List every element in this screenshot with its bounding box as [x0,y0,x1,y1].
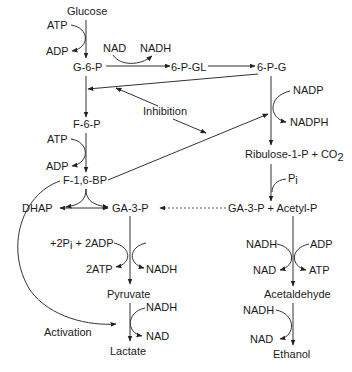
cofactor-nadp: NADP [293,84,324,96]
node-ethanol: Ethanol [273,348,310,360]
cofactor-2atp: 2ATP [86,263,113,275]
arrow-inhibition-down [173,119,206,133]
cofactor-nadh-eth: NADH [243,304,274,316]
arrow-2adp-2atp [114,243,128,267]
cofactor-adp-ace: ADP [310,238,333,250]
cofactor-nad-eth: NAD [250,333,273,345]
cofactor-nadh-lac: NADH [146,301,177,313]
arrow-inhibition-up [116,88,158,106]
arrow-adp-atp-ace [294,244,309,270]
cofactor-nad-1: NAD [103,42,126,54]
arrow-atp-adp-2 [71,139,85,166]
node-f16bp: F-1,6-BP [63,174,107,186]
cofactor-adp-1: ADP [46,45,69,57]
node-lactate: Lactate [110,345,146,357]
cofactor-nad-lac: NAD [146,330,169,342]
cofactor-atp-1: ATP [47,19,68,31]
cofactor-nad-ace: NAD [253,264,276,276]
cofactor-nadh-ace: NADH [246,238,277,250]
node-6pgl: 6-P-GL [171,61,206,73]
label-inhibition: Inhibition [143,105,187,117]
cofactor-nadh-1: NADH [140,42,171,54]
cofactor-nadph: NADPH [290,116,329,128]
arrow-f16bp-activation-pp [108,114,268,180]
node-f6p: F-6-P [73,118,101,130]
arrow-6pg-inhibit-line [88,74,258,89]
cofactor-pi: Pi [288,172,298,186]
arrow-nadh-nad-ace [277,244,292,270]
node-g6p: G-6-P [73,61,102,73]
cofactor-atp-ace: ATP [309,264,330,276]
metabolic-pathway-diagram: Glucose ATP ADP G-6-P NAD NADH 6-P-GL 6-… [0,0,352,372]
arrow-atp-adp-1 [71,25,85,51]
arrow-nadh-nad-eth [276,310,292,339]
arrow-glyc-nadh [132,243,146,268]
cofactor-nadh-glyc: NADH [146,263,177,275]
node-6pg: 6-P-G [257,61,286,73]
arrow-f16bp-dhap [66,189,86,207]
node-acetaldehyde: Acetaldehyde [264,288,331,300]
node-glucose: Glucose [67,5,107,17]
cofactor-atp-2: ATP [47,133,68,145]
arrow-pi-in [272,179,286,192]
cofactor-2pi-2adp: +2Pi + 2ADP [50,237,114,251]
label-activation: Activation [44,326,92,338]
node-ga3p-acetyl-p: GA-3-P + Acetyl-P [228,202,317,214]
node-pyruvate: Pyruvate [107,288,150,300]
arrow-f16bp-ga3p [86,189,108,207]
arrow-nad-nadh-1 [113,55,152,63]
node-ribulose-co2: Ribulose-1-P + CO2 [245,148,344,163]
arrow-nadp-nadph [273,91,290,122]
cofactor-adp-2: ADP [46,160,69,172]
node-ga3p: GA-3-P [112,202,149,214]
arrow-nadh-nad-lac [130,308,145,336]
node-dhap: DHAP [22,202,53,214]
